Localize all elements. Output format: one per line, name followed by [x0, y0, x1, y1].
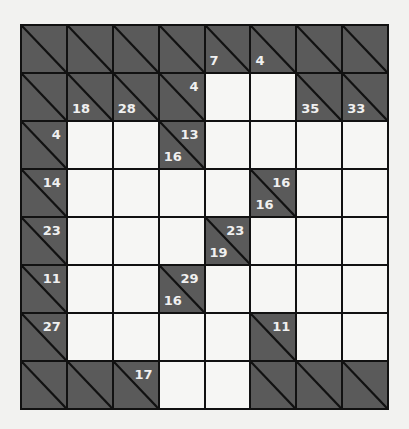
- clue-cell: [22, 26, 66, 72]
- down-clue: 33: [347, 102, 365, 115]
- down-clue: 35: [301, 102, 319, 115]
- clue-cell: [297, 362, 341, 408]
- across-clue: 11: [272, 320, 290, 333]
- clue-cell: [68, 362, 112, 408]
- diagonal-divider-icon: [22, 74, 66, 120]
- entry-cell[interactable]: [343, 122, 387, 168]
- entry-cell[interactable]: [206, 170, 250, 216]
- diagonal-divider-icon: [343, 362, 387, 408]
- across-clue: 14: [43, 176, 61, 189]
- entry-cell[interactable]: [297, 218, 341, 264]
- diagonal-divider-icon: [297, 26, 341, 72]
- entry-cell[interactable]: [343, 218, 387, 264]
- across-clue: 23: [226, 224, 244, 237]
- clue-cell: 18: [68, 74, 112, 120]
- entry-cell[interactable]: [68, 314, 112, 360]
- down-clue: 16: [164, 294, 182, 307]
- clue-cell: [68, 26, 112, 72]
- entry-cell[interactable]: [68, 218, 112, 264]
- clue-cell: [22, 74, 66, 120]
- entry-cell[interactable]: [297, 314, 341, 360]
- clue-cell: [114, 26, 158, 72]
- clue-cell: 35: [297, 74, 341, 120]
- diagonal-divider-icon: [160, 26, 204, 72]
- down-clue: 7: [210, 54, 219, 67]
- entry-cell[interactable]: [68, 122, 112, 168]
- clue-cell: 7: [206, 26, 250, 72]
- clue-cell: [22, 362, 66, 408]
- clue-cell: 11: [22, 266, 66, 312]
- clue-cell: [343, 26, 387, 72]
- across-clue: 27: [43, 320, 61, 333]
- entry-cell[interactable]: [160, 218, 204, 264]
- diagonal-divider-icon: [114, 26, 158, 72]
- entry-cell[interactable]: [206, 122, 250, 168]
- entry-cell[interactable]: [343, 266, 387, 312]
- entry-cell[interactable]: [297, 122, 341, 168]
- entry-cell[interactable]: [68, 266, 112, 312]
- entry-cell[interactable]: [206, 266, 250, 312]
- clue-cell: 23: [22, 218, 66, 264]
- clue-cell: [251, 362, 295, 408]
- across-clue: 17: [135, 368, 153, 381]
- entry-cell[interactable]: [251, 122, 295, 168]
- entry-cell[interactable]: [114, 314, 158, 360]
- clue-cell: [160, 26, 204, 72]
- entry-cell[interactable]: [206, 74, 250, 120]
- entry-cell[interactable]: [343, 314, 387, 360]
- entry-cell[interactable]: [343, 170, 387, 216]
- down-clue: 28: [118, 102, 136, 115]
- entry-cell[interactable]: [160, 362, 204, 408]
- clue-cell: 1616: [251, 170, 295, 216]
- kakuro-board: 7418284353341316141616232319112916271117: [20, 24, 389, 410]
- entry-cell[interactable]: [251, 74, 295, 120]
- diagonal-divider-icon: [343, 26, 387, 72]
- across-clue: 13: [180, 128, 198, 141]
- clue-cell: 4: [22, 122, 66, 168]
- across-clue: 4: [52, 128, 61, 141]
- clue-cell: 33: [343, 74, 387, 120]
- diagonal-divider-icon: [68, 362, 112, 408]
- across-clue: 23: [43, 224, 61, 237]
- diagonal-divider-icon: [68, 26, 112, 72]
- diagonal-divider-icon: [251, 362, 295, 408]
- across-clue: 4: [189, 80, 198, 93]
- entry-cell[interactable]: [114, 122, 158, 168]
- entry-cell[interactable]: [206, 314, 250, 360]
- down-clue: 4: [255, 54, 264, 67]
- entry-cell[interactable]: [68, 170, 112, 216]
- clue-cell: 14: [22, 170, 66, 216]
- clue-cell: 28: [114, 74, 158, 120]
- clue-cell: 1316: [160, 122, 204, 168]
- down-clue: 16: [255, 198, 273, 211]
- clue-cell: 11: [251, 314, 295, 360]
- entry-cell[interactable]: [297, 266, 341, 312]
- entry-cell[interactable]: [251, 266, 295, 312]
- down-clue: 16: [164, 150, 182, 163]
- entry-cell[interactable]: [160, 170, 204, 216]
- entry-cell[interactable]: [114, 170, 158, 216]
- diagonal-divider-icon: [297, 362, 341, 408]
- down-clue: 19: [210, 246, 228, 259]
- clue-cell: 27: [22, 314, 66, 360]
- entry-cell[interactable]: [251, 218, 295, 264]
- entry-cell[interactable]: [114, 218, 158, 264]
- entry-cell[interactable]: [297, 170, 341, 216]
- diagonal-divider-icon: [22, 362, 66, 408]
- across-clue: 16: [272, 176, 290, 189]
- diagonal-divider-icon: [22, 26, 66, 72]
- clue-cell: 17: [114, 362, 158, 408]
- clue-cell: [297, 26, 341, 72]
- across-clue: 29: [180, 272, 198, 285]
- across-clue: 11: [43, 272, 61, 285]
- entry-cell[interactable]: [206, 362, 250, 408]
- entry-cell[interactable]: [160, 314, 204, 360]
- down-clue: 18: [72, 102, 90, 115]
- clue-cell: 4: [160, 74, 204, 120]
- clue-cell: 2319: [206, 218, 250, 264]
- entry-cell[interactable]: [114, 266, 158, 312]
- clue-cell: [343, 362, 387, 408]
- clue-cell: 4: [251, 26, 295, 72]
- clue-cell: 2916: [160, 266, 204, 312]
